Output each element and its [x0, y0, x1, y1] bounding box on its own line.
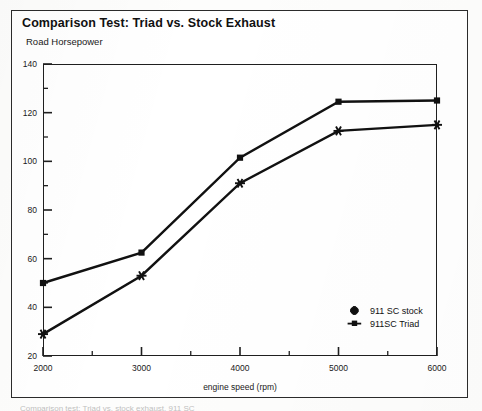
y-tick-label: 100: [9, 156, 37, 166]
y-tick-label: 120: [9, 108, 37, 118]
x-tick-label: 5000: [316, 363, 362, 373]
x-tick-label: 4000: [217, 363, 263, 373]
y-tick-label: 40: [9, 302, 37, 312]
page-bottom-caption: Comparison test: Triad vs. stock exhaust…: [20, 404, 195, 411]
x-tick-label: 3000: [119, 363, 165, 373]
x-tick-label: 6000: [414, 363, 460, 373]
chart-title: Comparison Test: Triad vs. Stock Exhaust: [22, 16, 275, 30]
x-tick-label: 2000: [20, 363, 66, 373]
y-tick-label: 20: [9, 351, 37, 361]
legend-label-triad: 911SC Triad: [370, 319, 419, 329]
legend-item-stock: 911 SC stock: [346, 304, 423, 317]
star-marker-icon: [346, 304, 366, 317]
y-tick-label: 80: [9, 205, 37, 215]
legend-label-stock: 911 SC stock: [370, 306, 423, 316]
scanned-chart-page: Comparison Test: Triad vs. Stock Exhaust…: [0, 0, 482, 411]
chart-subtitle: Road Horsepower: [26, 36, 103, 47]
x-axis-title: engine speed (rpm): [43, 382, 437, 392]
legend-item-triad: 911SC Triad: [346, 317, 423, 330]
chart-legend: 911 SC stock 911SC Triad: [346, 304, 423, 330]
square-marker-icon: [346, 317, 366, 330]
y-tick-label: 140: [9, 59, 37, 69]
y-tick-label: 60: [9, 254, 37, 264]
